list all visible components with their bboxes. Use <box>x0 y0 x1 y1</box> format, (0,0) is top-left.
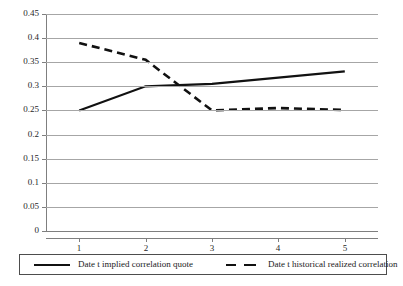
y-axis-labels: 00.050.10.150.20.250.30.350.40.45 <box>0 0 39 286</box>
legend-label-implied-correlation-quote: Date t implied correlation quote <box>78 259 193 270</box>
y-axis-tick <box>42 159 46 160</box>
x-axis-tick-label: 3 <box>202 243 222 253</box>
x-axis-tick <box>345 238 346 242</box>
y-axis-tick-label: 0.45 <box>0 9 39 18</box>
line-chart: 00.050.10.150.20.250.30.350.40.45 Date t… <box>0 0 403 286</box>
series-line-implied-correlation-quote <box>79 71 345 110</box>
gridline <box>46 38 378 39</box>
y-axis-tick-label: 0.1 <box>0 178 39 187</box>
y-axis-tick <box>42 231 46 232</box>
gridline <box>46 207 378 208</box>
y-axis-tick <box>42 183 46 184</box>
gridline <box>46 62 378 63</box>
y-axis-tick <box>42 14 46 15</box>
y-axis-tick-label: 0 <box>0 226 39 235</box>
gridline <box>46 183 378 184</box>
solid-line-swatch <box>34 260 70 270</box>
plot-area <box>46 14 378 231</box>
series-line-historical-realized-correlation <box>79 43 345 111</box>
x-axis-tick-label: 4 <box>268 243 288 253</box>
y-axis-tick-label: 0.3 <box>0 81 39 90</box>
x-axis-tick-label: 5 <box>335 243 355 253</box>
gridline <box>46 231 378 232</box>
y-axis-tick-label: 0.25 <box>0 105 39 114</box>
y-axis-tick <box>42 86 46 87</box>
y-axis-tick-label: 0.15 <box>0 154 39 163</box>
y-axis-tick <box>42 110 46 111</box>
x-axis-tick <box>79 238 80 242</box>
gridline <box>46 159 378 160</box>
x-axis-tick <box>278 238 279 242</box>
gridline <box>46 14 378 15</box>
y-axis-tick-label: 0.2 <box>0 130 39 139</box>
x-axis-tick-label: 1 <box>69 243 89 253</box>
y-axis-tick <box>42 207 46 208</box>
legend-entry-implied-correlation-quote: Date t implied correlation quote <box>34 255 193 274</box>
x-axis-tick-label: 2 <box>136 243 156 253</box>
gridline <box>46 135 378 136</box>
x-axis-tick <box>212 238 213 242</box>
y-axis-tick-label: 0.4 <box>0 33 39 42</box>
y-axis-tick-label: 0.35 <box>0 57 39 66</box>
legend-entry-historical-realized-correlation: Date t historical realized correlation <box>224 255 397 274</box>
gridline <box>46 86 378 87</box>
y-axis-tick-label: 0.05 <box>0 202 39 211</box>
x-axis-tick <box>146 238 147 242</box>
series-layer <box>46 14 378 231</box>
y-axis-tick <box>42 38 46 39</box>
y-axis-tick <box>42 62 46 63</box>
chart-legend: Date t implied correlation quote Date t … <box>19 254 387 275</box>
gridline <box>46 110 378 111</box>
dashed-line-swatch <box>224 260 260 270</box>
y-axis-tick <box>42 135 46 136</box>
legend-label-historical-realized-correlation: Date t historical realized correlation <box>268 259 397 270</box>
